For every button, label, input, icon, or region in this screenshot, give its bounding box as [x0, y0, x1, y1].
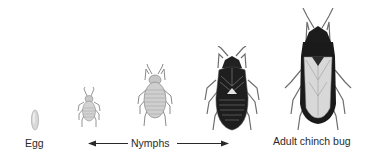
nymphs-label: Nymphs	[131, 138, 170, 149]
adult-chinch-bug-label: Adult chinch bug	[273, 136, 351, 147]
chinch-bug-life-cycle-diagram: Egg Nymphs Adult chinch bug	[0, 0, 367, 159]
egg-label: Egg	[25, 138, 44, 149]
